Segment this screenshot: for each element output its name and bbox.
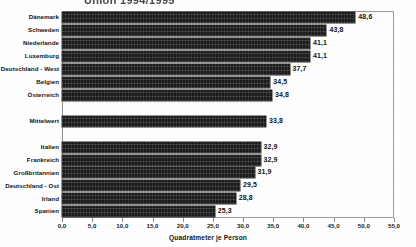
bar-value-label: 33,8	[269, 117, 283, 124]
bar-chart-figure: Union 1994/1995 DänemarkSchwedenNiederla…	[0, 0, 416, 247]
x-tick-label: 15,0	[147, 222, 159, 229]
category-label: Italien	[0, 143, 59, 150]
plot-area: 48,643,841,141,137,734,534,833,832,932,9…	[62, 11, 394, 218]
x-tick-label: 20,0	[177, 222, 189, 229]
bar	[62, 155, 261, 166]
bar	[62, 77, 270, 88]
x-tick-label: 45,0	[328, 222, 340, 229]
bar-value-label: 34,5	[273, 78, 287, 85]
category-label: Belgien	[0, 78, 59, 85]
x-tick-label: 55,0	[388, 222, 400, 229]
category-label: Mittelwert	[0, 117, 59, 124]
bar	[62, 206, 215, 217]
bar-value-label: 41,1	[313, 52, 327, 59]
x-tick-label: 30,0	[237, 222, 249, 229]
bar	[62, 38, 310, 49]
bar-value-label: 29,5	[243, 181, 257, 188]
bar-value-label: 37,7	[293, 65, 307, 72]
category-label: Deutschland - Ost	[0, 182, 59, 189]
bar	[62, 167, 255, 178]
bar	[62, 64, 290, 75]
x-tick-label: 35,0	[267, 222, 279, 229]
bar	[62, 142, 261, 153]
bar	[62, 180, 240, 191]
bar-row: 25,3	[62, 206, 394, 217]
bar-row: 34,5	[62, 77, 394, 88]
category-label: Frankreich	[0, 156, 59, 163]
category-label: Niederlande	[0, 39, 59, 46]
x-tick-label: 50,0	[358, 222, 370, 229]
category-label: Irland	[0, 195, 59, 202]
x-axis-tick-labels: 0,05,010,015,020,025,030,035,040,045,050…	[0, 222, 416, 232]
category-label: Deutschland - West	[0, 65, 59, 72]
bar-value-label: 41,1	[313, 39, 327, 46]
bar	[62, 116, 266, 127]
bar-value-label: 25,3	[218, 207, 232, 214]
bar-row: 37,7	[62, 64, 394, 75]
bar-row: 31,9	[62, 167, 394, 178]
category-label: Großbritannien	[0, 169, 59, 176]
x-tick-label: 25,0	[207, 222, 219, 229]
x-axis-title: Quadratmeter je Person	[0, 234, 416, 241]
bar	[62, 12, 355, 23]
bar-row: 41,1	[62, 38, 394, 49]
category-label: Spanien	[0, 207, 59, 214]
x-tick-label: 5,0	[88, 222, 97, 229]
category-label: Schweden	[0, 26, 59, 33]
category-label-column: DänemarkSchwedenNiederlandeLuxemburgDeut…	[0, 11, 59, 218]
bar-row: 48,6	[62, 12, 394, 23]
bar	[62, 193, 236, 204]
category-label: Luxemburg	[0, 52, 59, 59]
bar-row: 29,5	[62, 180, 394, 191]
bar-row: 33,8	[62, 116, 394, 127]
bar-value-label: 43,8	[329, 26, 343, 33]
x-tick-label: 40,0	[297, 222, 309, 229]
bar-value-label: 48,6	[358, 13, 372, 20]
x-tick-label: 10,0	[116, 222, 128, 229]
bar-row: 34,8	[62, 90, 394, 101]
bar-value-label: 32,9	[264, 143, 278, 150]
bar-row: 32,9	[62, 142, 394, 153]
chart-title-clipped: Union 1994/1995	[0, 0, 416, 9]
category-label: Österreich	[0, 91, 59, 98]
bar-row: 28,8	[62, 193, 394, 204]
bar-value-label: 32,9	[264, 156, 278, 163]
bar	[62, 90, 272, 101]
bar-row: 43,8	[62, 25, 394, 36]
bar	[62, 51, 310, 62]
x-tick-label: 0,0	[58, 222, 67, 229]
bar-value-label: 34,8	[275, 91, 289, 98]
bar-row: 41,1	[62, 51, 394, 62]
page-title: Union 1994/1995	[84, 0, 175, 6]
bar-value-label: 31,9	[258, 168, 272, 175]
bar	[62, 25, 326, 36]
bar-row: 32,9	[62, 155, 394, 166]
category-label: Dänemark	[0, 13, 59, 20]
bar-value-label: 28,8	[239, 194, 253, 201]
